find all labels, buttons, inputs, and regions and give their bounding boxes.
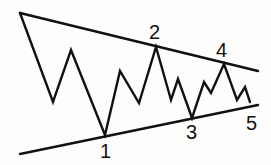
lower-trendline xyxy=(20,105,258,154)
wave-label-1: 1 xyxy=(100,140,111,162)
wave-label-2: 2 xyxy=(149,21,160,43)
wave-label-4: 4 xyxy=(216,39,227,61)
diagram-canvas: 12345 xyxy=(0,0,271,165)
triangle-wave-diagram: 12345 xyxy=(0,0,271,165)
price-zigzag-path xyxy=(20,13,250,135)
wave-label-3: 3 xyxy=(186,121,197,143)
wave-label-5: 5 xyxy=(246,112,257,134)
